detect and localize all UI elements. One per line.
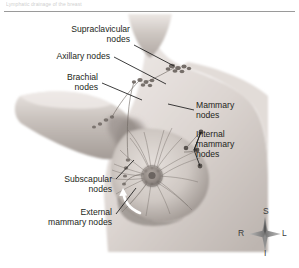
compass-inferior-label: I: [264, 248, 266, 258]
figure-container: Lymphatic drainage of the breast: [0, 0, 299, 268]
compass-superior-label: S: [263, 206, 269, 216]
label-supraclavicular-nodes: Supraclavicular nodes: [46, 24, 130, 44]
label-external-mammary-nodes: External mammary nodes: [8, 207, 112, 227]
label-axillary-nodes: Axillary nodes: [14, 51, 110, 61]
label-internal-mammary-nodes: Internal mammary nodes: [196, 129, 262, 160]
compass-right-label: R: [238, 228, 244, 238]
label-brachial-nodes: Brachial nodes: [14, 72, 98, 92]
areola-nipple: [142, 166, 163, 187]
label-mammary-nodes: Mammary nodes: [196, 100, 266, 120]
orientation-compass: S R L I: [236, 206, 296, 264]
leader-brachial: [102, 83, 142, 100]
compass-left-label: L: [282, 228, 287, 238]
label-subscapular-nodes: Subscapular nodes: [26, 174, 112, 194]
